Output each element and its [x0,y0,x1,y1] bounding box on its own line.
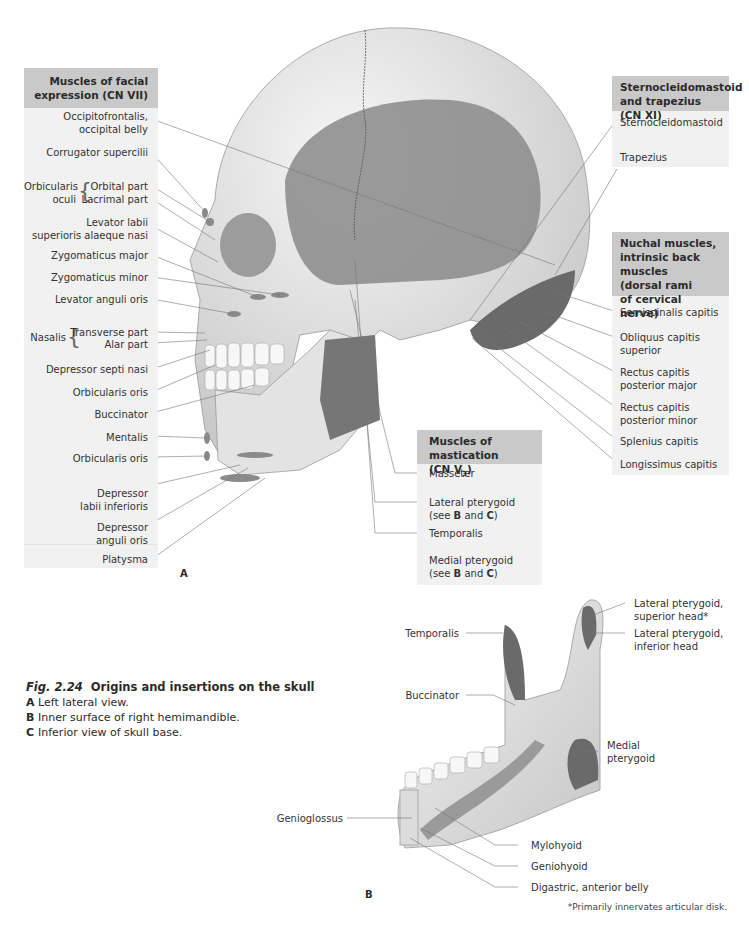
label-b-genioglossus: Genioglossus [277,812,343,825]
label-lateral-pterygoid: Lateral pterygoid(see B and C) [429,496,515,522]
label-orbicularis-oculi: Orbicularisoculi [24,180,76,206]
label-platysma: Platysma [102,553,148,566]
label-corrugator-supercilii: Corrugator supercilii [46,146,148,159]
label-b-medial-pterygoid: Medialpterygoid [607,739,655,765]
label-rectus-capitis-posterior-minor: Rectus capitisposterior minor [620,401,697,427]
view-letter-b: B [365,889,373,900]
label-obliquus-capitis-superior: Obliquus capitissuperior [620,331,700,357]
caption-item-c: CInferior view of skull base. [26,725,315,740]
label-depressor-septi-nasi: Depressor septi nasi [46,363,148,376]
view-letter-a: A [180,568,188,579]
label-rectus-capitis-posterior-major: Rectus capitisposterior major [620,366,697,392]
label-nasalis: Nasalis [24,331,66,344]
label-alar-part: Alar part [104,338,148,351]
label-splenius-capitis: Splenius capitis [620,435,698,448]
label-b-lateral-pterygoid-inferior: Lateral pterygoid,inferior head [634,627,723,653]
label-sternocleidomastoid: Sternocleidomastoid [620,116,723,129]
label-occipitofrontalis: Occipitofrontalis,occipital belly [63,110,148,136]
panel-header: Muscles of facial expression (CN VII) [24,68,158,108]
footnote: *Primarily innervates articular disk. [568,902,727,912]
label-lacrimal-part: Lacrimal part [82,193,148,206]
panel-title: Muscles of facial expression (CN VII) [34,74,148,102]
panel-nuchal-muscles: Nuchal muscles,intrinsic back muscles(do… [612,232,729,475]
label-depressor-anguli-oris: Depressoranguli oris [96,521,148,547]
label-b-lateral-pterygoid-superior: Lateral pterygoid,superior head* [634,597,723,623]
label-orbital-part: Orbital part [90,180,148,193]
caption-title: Fig. 2.24 Origins and insertions on the … [26,680,315,695]
label-mentalis: Mentalis [106,431,148,444]
label-buccinator: Buccinator [94,408,148,421]
label-medial-pterygoid: Medial pterygoid(see B and C) [429,554,513,580]
label-orbicularis-oris: Orbicularis oris [73,386,148,399]
label-levator-labii: Levator labiisuperioris alaeque nasi [32,216,148,242]
label-masseter: Masseter [429,467,475,480]
label-b-geniohyoid: Geniohyoid [531,860,588,873]
caption-item-a: ALeft lateral view. [26,695,315,710]
label-b-temporalis: Temporalis [405,627,459,640]
label-longissimus-capitis: Longissimus capitis [620,458,717,471]
label-temporalis: Temporalis [429,527,483,540]
label-b-digastric-anterior-belly: Digastric, anterior belly [531,881,649,894]
label-trapezius: Trapezius [620,151,667,164]
panel-header: Muscles of mastication(CN V3) [417,430,542,464]
masseter-attachment [320,335,380,440]
label-b-buccinator: Buccinator [405,689,459,702]
label-semispinalis-capitis: Semispinalis capitis [620,306,718,319]
figure-caption: Fig. 2.24 Origins and insertions on the … [26,680,315,740]
label-depressor-labii-inferioris: Depressorlabii inferioris [80,487,148,513]
symphysis-section [400,790,418,845]
skull-lateral-view [190,28,590,482]
label-b-mylohyoid: Mylohyoid [531,839,582,852]
panel-header: Sternocleidomastoidand trapezius (CN XI) [612,76,729,111]
caption-item-b: BInner surface of right hemimandible. [26,710,315,725]
label-orbicularis-oris-lower: Orbicularis oris [73,452,148,465]
panel-muscles-of-mastication: Muscles of mastication(CN V3) Masseter L… [417,430,542,585]
label-levator-anguli-oris: Levator anguli oris [55,293,148,306]
orbit [220,213,276,277]
label-zygomaticus-major: Zygomaticus major [51,249,148,262]
label-zygomaticus-minor: Zygomaticus minor [51,271,148,284]
panel-header: Nuchal muscles,intrinsic back muscles(do… [612,232,729,296]
panel-cn-xi: Sternocleidomastoidand trapezius (CN XI)… [612,76,729,167]
